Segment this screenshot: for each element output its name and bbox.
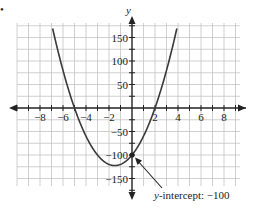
bullet-marker: • [0,3,4,15]
y-tick-label: −150 [105,173,128,185]
y-intercept-annotation: y-intercept: −100 [153,189,230,201]
x-tick-label: −8 [34,111,46,123]
y-axis-up-arrow-icon [129,16,136,24]
x-tick-label: −4 [80,111,92,123]
y-tick-label: −100 [105,149,128,161]
y-tick-label: 100 [112,55,129,67]
x-axis-left-arrow-icon [9,105,17,112]
x-tick-label: −2 [103,111,115,123]
y-tick-label: 150 [112,32,129,44]
y-tick-label: −50 [111,126,129,138]
y-axis-down-arrow-icon [129,192,136,200]
x-tick-label: 6 [198,111,204,123]
y-axis-label: y [125,4,131,16]
annotation-arrow [137,160,162,188]
x-axis-right-arrow-icon [238,105,246,112]
y-tick-label: 50 [117,79,129,91]
x-tick-label: −6 [57,111,69,123]
parabola-chart: • −8−6−4−2246815010050−50−100−150 y y-in… [0,0,253,209]
x-tick-label: 4 [175,111,181,123]
x-tick-label: 8 [221,111,227,123]
y-intercept-point [129,152,134,157]
grid-lines [17,23,240,186]
